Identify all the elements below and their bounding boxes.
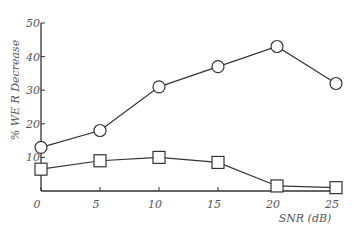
circle-marker [271,41,283,53]
circle-marker [94,125,106,137]
x-axis-label: SNR (dB) [279,212,332,225]
y-tick-label: 30 [26,84,40,97]
circle-marker [35,141,47,153]
x-tick-label: 25 [324,198,339,211]
square-marker [330,182,342,194]
x-tick-label: 10 [148,198,162,211]
square-marker [212,156,224,168]
y-tick-label: 50 [26,17,40,30]
x-tick-label: 15 [207,198,221,211]
square-marker [35,163,47,175]
square-marker [153,151,165,163]
y-tick-label: 20 [25,118,40,131]
x-tick-label: 5 [93,198,100,211]
y-tick-label: 40 [25,51,40,64]
y-tick-label: 10 [26,151,40,164]
x-tick-label: 20 [265,198,280,211]
square-marker [271,180,283,192]
x-tick-label: 0 [34,198,41,211]
circle-marker [330,77,342,89]
circle-marker [153,81,165,93]
circle-series-line [41,47,336,148]
square-series-line [41,157,336,187]
circle-marker [212,61,224,73]
line-chart: 05101520251020304050SNR (dB)% WE R Decre… [0,0,354,234]
square-marker [94,155,106,167]
y-axis-label: % WE R Decrease [9,39,22,140]
